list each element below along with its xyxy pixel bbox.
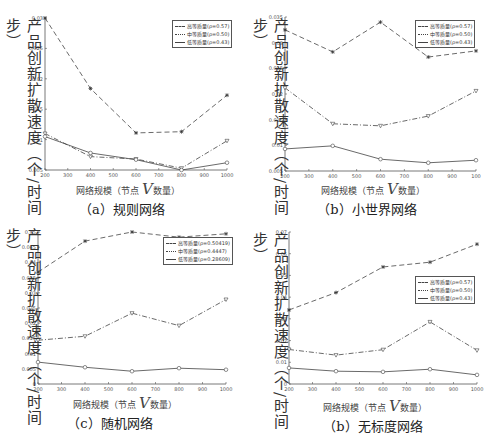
- x-tick-label: 400: [328, 173, 338, 179]
- circle-marker: [83, 365, 87, 369]
- legend-item-low: 低等质量(ρ=0.28609): [166, 255, 230, 263]
- legend-item-high: 高等质量(ρ=0.57): [418, 278, 472, 286]
- x-tick-label: 400: [331, 386, 341, 392]
- series-line: [45, 137, 227, 170]
- circle-marker: [130, 369, 134, 373]
- x-tick-label: 600: [378, 386, 388, 392]
- x-tick-label: 300: [308, 386, 318, 392]
- triangle-marker: [334, 354, 338, 358]
- x-tick-label: 800: [423, 173, 433, 179]
- x-tick-label: 1000: [471, 386, 484, 392]
- legend-item-mid: 中等质量(ρ=0.50): [418, 30, 472, 38]
- circle-marker: [89, 151, 93, 155]
- x-tick-label: 700: [402, 386, 412, 392]
- x-tick-label: 600: [131, 172, 141, 178]
- x-tick-label: 700: [400, 173, 410, 179]
- x-tick-label: 900: [198, 386, 208, 392]
- legend-item-mid: 中等质量(ρ=0.4447): [166, 247, 230, 255]
- circle-marker: [334, 369, 338, 373]
- x-axis-label: 网络规模（节点 V数量）: [28, 180, 228, 198]
- legend: 高等质量(ρ=0.57) 中等质量(ρ=0.50) 低等质量(ρ=0.43): [415, 20, 475, 48]
- legend: 高等质量(ρ=0.50419) 中等质量(ρ=0.4447) 低等质量(ρ=0.…: [163, 237, 233, 265]
- x-tick-label: 400: [86, 172, 96, 178]
- asterisk-marker: [225, 93, 229, 97]
- triangle-marker: [224, 298, 228, 302]
- x-tick-label: 300: [63, 172, 73, 178]
- triangle-marker: [474, 89, 478, 93]
- series-line: [38, 299, 226, 340]
- x-tick-label: 1000: [220, 386, 233, 392]
- triangle-marker: [379, 124, 383, 128]
- x-tick-label: 300: [57, 386, 67, 392]
- asterisk-marker: [475, 242, 479, 246]
- x-tick-label: 900: [199, 172, 209, 178]
- x-tick-label: 600: [376, 173, 386, 179]
- x-tick-label: 400: [80, 386, 90, 392]
- asterisk-marker: [89, 87, 93, 91]
- x-tick-label: 800: [174, 386, 184, 392]
- asterisk-marker: [134, 131, 138, 135]
- asterisk-marker: [426, 55, 430, 59]
- x-tick-label: 500: [104, 386, 114, 392]
- panel-caption: （b）小世界网络: [267, 199, 467, 218]
- series-line: [285, 88, 476, 126]
- circle-marker: [331, 144, 335, 148]
- x-tick-label: 800: [425, 386, 435, 392]
- triangle-marker: [225, 139, 229, 143]
- asterisk-marker: [334, 291, 338, 295]
- asterisk-marker: [428, 260, 432, 264]
- x-axis-label: 网络规模（节点 V数量）: [275, 397, 475, 415]
- legend-item-mid: 中等质量(ρ=0.50): [418, 286, 472, 294]
- x-axis-label: 网络规模（节点 V数量）: [273, 180, 473, 198]
- legend-item-mid: 中等质量(ρ=0.50): [175, 30, 229, 38]
- circle-marker: [225, 161, 229, 165]
- triangle-marker: [83, 335, 87, 339]
- legend: 高等质量(ρ=0.57) 中等质量(ρ=0.50) 低等质量(ρ=0.43): [172, 20, 232, 48]
- circle-marker: [134, 158, 138, 162]
- series-line: [45, 134, 227, 169]
- circle-marker: [177, 366, 181, 370]
- asterisk-marker: [83, 239, 87, 243]
- triangle-marker: [177, 324, 181, 328]
- x-tick-label: 500: [355, 386, 365, 392]
- asterisk-marker: [381, 265, 385, 269]
- x-tick-label: 700: [151, 386, 161, 392]
- panel-caption: （c）随机网络: [10, 413, 210, 432]
- circle-marker: [426, 161, 430, 165]
- legend-item-high: 高等质量(ρ=0.57): [418, 22, 472, 30]
- legend: 高等质量(ρ=0.57) 中等质量(ρ=0.50) 低等质量(ρ=0.43): [415, 276, 475, 304]
- x-tick-label: 1000: [221, 172, 234, 178]
- asterisk-marker: [379, 20, 383, 24]
- legend-item-low: 低等质量(ρ=0.43): [175, 38, 229, 46]
- x-tick-label: 300: [304, 173, 314, 179]
- panel-caption: （a）规则网络: [22, 199, 222, 218]
- panel-regular-network: 0.0050.010.0150.020.0250.032003004005006…: [0, 0, 244, 221]
- panel-caption: （b）无标度网络: [273, 416, 473, 435]
- x-tick-label: 800: [177, 172, 187, 178]
- asterisk-marker: [224, 232, 228, 236]
- panel-scale-free-network: 00.010.020.030.040.050.060.0720030040050…: [245, 222, 489, 442]
- asterisk-marker: [130, 230, 134, 234]
- circle-marker: [475, 373, 479, 377]
- triangle-marker: [475, 349, 479, 352]
- legend-item-high: 高等质量(ρ=0.57): [175, 22, 229, 30]
- circle-marker: [180, 168, 184, 172]
- x-tick-label: 700: [154, 172, 164, 178]
- circle-marker: [379, 157, 383, 161]
- x-tick-label: 900: [449, 386, 459, 392]
- x-tick-label: 100: [471, 173, 481, 179]
- legend-item-low: 低等质量(ρ=0.43): [418, 294, 472, 302]
- legend-item-high: 高等质量(ρ=0.50419): [166, 239, 230, 247]
- legend-item-low: 低等质量(ρ=0.43): [418, 38, 472, 46]
- circle-marker: [428, 367, 432, 371]
- x-tick-label: 500: [352, 173, 362, 179]
- triangle-marker: [428, 320, 432, 324]
- asterisk-marker: [180, 130, 184, 134]
- x-tick-label: 500: [108, 172, 118, 178]
- x-tick-label: 900: [447, 173, 457, 179]
- x-axis-label: 网络规模（节点 V数量）: [25, 394, 225, 412]
- x-tick-label: 600: [127, 386, 137, 392]
- circle-marker: [224, 368, 228, 372]
- circle-marker: [381, 370, 385, 374]
- panel-small-world-network: 0.0050.010.0150.020.0250.030.03520030040…: [245, 0, 489, 221]
